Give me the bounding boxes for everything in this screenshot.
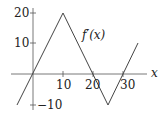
y-axis: [30, 8, 36, 110]
curve-label: f′(x): [82, 29, 105, 41]
y-tick-neg10: −10: [37, 99, 62, 111]
x-axis-label: x: [151, 67, 158, 79]
x-tick-20: 20: [85, 79, 100, 91]
x-tick-30: 30: [120, 79, 135, 91]
x-tick-10: 10: [56, 79, 71, 91]
y-tick-20: 20: [14, 7, 29, 19]
y-tick-10: 10: [14, 37, 29, 49]
